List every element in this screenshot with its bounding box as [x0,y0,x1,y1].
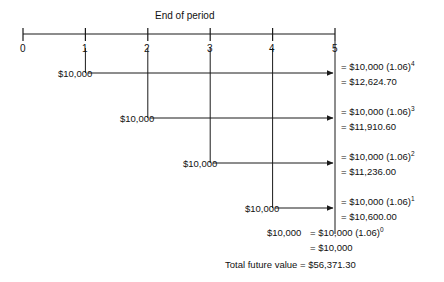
cash-flow-label-period-1: $10,000 [58,69,92,79]
timeline-axis [23,28,335,41]
calculation-formula-1-text: = $10,000 (1.06) [341,61,411,72]
calculation-exponent-2: 3 [411,105,415,112]
calculation-exponent-4: 1 [411,195,415,202]
calculation-formula-3-text: = $10,000 (1.06) [341,151,411,162]
calculation-result-2: = $11,910.60 [341,122,396,132]
calculation-exponent-3: 2 [411,150,415,157]
future-value-timeline-diagram [0,0,444,282]
axis-title: End of period [155,11,215,21]
calculation-result-5: = $10,000 [310,243,353,253]
tick-label-4: 4 [269,44,275,54]
tick-label-0: 0 [20,44,26,54]
total-future-value-label: Total future value = $56,371.30 [225,260,356,270]
cash-flow-label-period-3: $10,000 [183,159,217,169]
period-drop-lines [85,41,335,234]
calculation-formula-2: = $10,000 (1.06)3 [341,107,415,117]
cash-flow-label-period-5: $10,000 [267,228,301,238]
tick-label-2: 2 [144,44,150,54]
calculation-formula-5-text: = $10,000 (1.06) [310,227,380,238]
tick-label-5: 5 [332,44,338,54]
tick-label-3: 3 [207,44,213,54]
calculation-formula-2-text: = $10,000 (1.06) [341,106,411,117]
calculation-formula-4-text: = $10,000 (1.06) [341,196,411,207]
cash-flow-label-period-4: $10,000 [245,204,279,214]
calculation-exponent-5: 0 [380,226,384,233]
calculation-formula-4: = $10,000 (1.06)1 [341,197,415,207]
calculation-result-1: = $12,624.70 [341,77,397,87]
cash-flow-label-period-2: $10,000 [120,114,154,124]
calculation-formula-5: = $10,000 (1.06)0 [310,228,384,238]
calculation-exponent-1: 4 [411,60,415,67]
calculation-formula-3: = $10,000 (1.06)2 [341,152,415,162]
calculation-result-4: = $10,600.00 [341,212,397,222]
calculation-result-3: = $11,236.00 [341,167,396,177]
tick-label-1: 1 [82,44,88,54]
calculation-formula-1: = $10,000 (1.06)4 [341,62,415,72]
